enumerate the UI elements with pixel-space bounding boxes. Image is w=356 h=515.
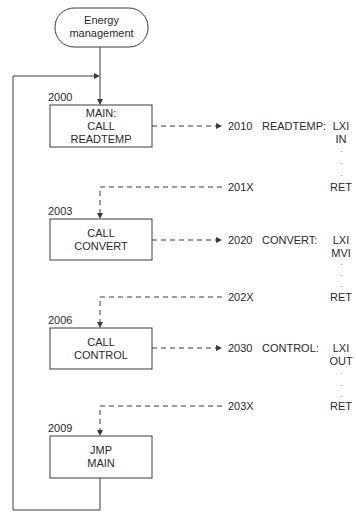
block-2006-text: CALL CONTROL xyxy=(50,336,152,362)
return-line-202x xyxy=(100,297,222,322)
instr-ret: RET xyxy=(328,291,354,304)
ellipsis-dot: . xyxy=(330,170,352,178)
return-line-203x xyxy=(100,406,222,430)
subroutine-address-2030: 2030 xyxy=(228,342,252,355)
address-label-2000: 2000 xyxy=(48,91,72,104)
arrowhead-icon xyxy=(97,322,103,328)
instr-ret: RET xyxy=(328,181,354,194)
block-text-line: CALL xyxy=(50,336,152,349)
subroutine-name-control: CONTROL: xyxy=(262,342,319,355)
arrowhead-icon xyxy=(94,73,100,79)
ellipsis-dot: . xyxy=(330,391,352,399)
subroutine-name-readtemp: READTEMP: xyxy=(262,120,326,133)
block-2003-text: CALL CONVERT xyxy=(50,227,152,253)
subroutine-address-2020: 2020 xyxy=(228,234,252,247)
address-label-2009: 2009 xyxy=(48,422,72,435)
arrowhead-icon xyxy=(216,345,222,351)
instr-ret: RET xyxy=(328,400,354,413)
instr-lxi: LXI xyxy=(330,342,352,355)
ellipsis-dot: . xyxy=(330,281,352,289)
start-label: Energy management xyxy=(55,14,148,40)
instr-lxi: LXI xyxy=(330,234,352,247)
arrowhead-icon xyxy=(216,237,222,243)
arrowhead-icon xyxy=(216,123,222,129)
ellipsis-dot: . xyxy=(330,380,352,388)
return-address-201x: 201X xyxy=(228,181,254,194)
block-text-line: CONTROL xyxy=(50,349,152,362)
subroutine-address-2010: 2010 xyxy=(228,120,252,133)
address-label-2003: 2003 xyxy=(48,205,72,218)
ellipsis-dot: . xyxy=(330,259,352,267)
arrowhead-icon xyxy=(97,213,103,219)
block-text-line: JMP xyxy=(50,444,152,457)
block-text-line: READTEMP xyxy=(50,133,152,146)
block-text-line: CALL xyxy=(50,120,152,133)
return-address-203x: 203X xyxy=(228,400,254,413)
block-2000-text: MAIN: CALL READTEMP xyxy=(50,107,152,146)
block-text-line: MAIN: xyxy=(50,107,152,120)
ellipsis-dot: . xyxy=(330,368,352,376)
block-text-line: CONVERT xyxy=(50,240,152,253)
address-label-2006: 2006 xyxy=(48,314,72,327)
arrowhead-icon xyxy=(97,430,103,436)
block-2009-text: JMP MAIN xyxy=(50,444,152,470)
ellipsis-dot: . xyxy=(330,146,352,154)
arrowhead-icon xyxy=(97,99,103,105)
flowchart-canvas xyxy=(0,0,356,515)
instr-lxi: LXI xyxy=(330,120,352,133)
block-text-line: MAIN xyxy=(50,457,152,470)
start-label-line1: Energy xyxy=(55,14,148,27)
ellipsis-dot: . xyxy=(330,270,352,278)
subroutine-name-convert: CONVERT: xyxy=(262,234,317,247)
return-line-201x xyxy=(100,187,222,213)
start-label-line2: management xyxy=(55,27,148,40)
block-text-line: CALL xyxy=(50,227,152,240)
ellipsis-dot: . xyxy=(330,158,352,166)
return-address-202x: 202X xyxy=(228,291,254,304)
